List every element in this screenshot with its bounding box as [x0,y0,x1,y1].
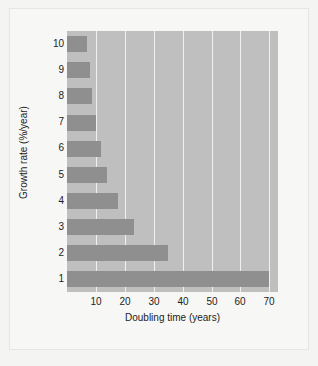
bar [67,88,92,104]
x-axis-label: Doubling time (years) [67,312,278,323]
y-tick-label: 5 [24,170,64,180]
x-tick-label: 70 [254,296,284,307]
y-tick-label: 2 [24,248,64,258]
gridline [269,31,270,292]
y-tick-label: 10 [24,39,64,49]
bar [67,193,118,209]
chart-figure: 10987654321 10203040506070 Doubling time… [0,0,318,366]
x-tick-label: 50 [197,296,227,307]
y-axis-label: Growth rate (%/year) [18,73,29,233]
x-tick-label: 30 [139,296,169,307]
bar [67,62,90,78]
gridline [240,31,241,292]
x-tick-label: 20 [110,296,140,307]
x-tick-label: 40 [168,296,198,307]
y-tick-label: 1 [24,274,64,284]
y-tick-label: 6 [24,143,64,153]
y-tick-label: 3 [24,222,64,232]
bar [67,141,101,157]
bar [67,115,96,131]
gridline [183,31,184,292]
bar [67,271,269,287]
y-tick-label: 9 [24,65,64,75]
bar [67,167,107,183]
y-tick-label: 7 [24,117,64,127]
y-tick-label: 4 [24,196,64,206]
bar [67,219,134,235]
x-tick-label: 60 [225,296,255,307]
plot-area [67,31,278,292]
gridline [212,31,213,292]
bar [67,245,168,261]
x-tick-label: 10 [81,296,111,307]
x-axis-ticks: 10203040506070 [67,296,282,310]
bar [67,36,87,52]
y-tick-label: 8 [24,91,64,101]
